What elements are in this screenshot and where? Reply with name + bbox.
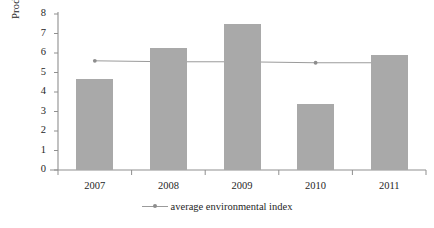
y-axis-tick-label: 2	[32, 125, 46, 136]
chart-figure: Productivity, t/ha 012345678 20072008200…	[0, 0, 434, 228]
x-axis-tick-label-2008: 2008	[145, 181, 191, 192]
chart-legend: average environmental index	[0, 200, 434, 212]
legend-item-label: average environmental index	[171, 201, 293, 212]
y-axis-tick-label: 7	[32, 28, 46, 39]
bar-2007	[76, 79, 113, 170]
y-axis-tick-label: 6	[32, 47, 46, 58]
x-axis-tick-label-2011: 2011	[366, 181, 412, 192]
bar-2011	[371, 55, 408, 170]
line-marker	[93, 59, 97, 63]
chart-plot-area	[0, 0, 434, 228]
legend-item-average-environmental-index: average environmental index	[142, 200, 293, 212]
y-axis-tick-label: 3	[32, 106, 46, 117]
line-marker	[314, 61, 318, 65]
y-axis-tick-label: 1	[32, 145, 46, 156]
x-axis-tick-label-2010: 2010	[293, 181, 339, 192]
x-axis-tick-label-2007: 2007	[72, 181, 118, 192]
y-axis-tick-label: 8	[32, 8, 46, 19]
x-axis-tick-label-2009: 2009	[219, 181, 265, 192]
bar-2008	[150, 48, 187, 170]
bar-2009	[224, 24, 261, 170]
y-axis-tick-label: 0	[32, 164, 46, 175]
bar-2010	[297, 104, 334, 170]
legend-line-marker-icon	[142, 202, 168, 211]
y-axis-tick-label: 4	[32, 86, 46, 97]
y-axis-tick-label: 5	[32, 67, 46, 78]
